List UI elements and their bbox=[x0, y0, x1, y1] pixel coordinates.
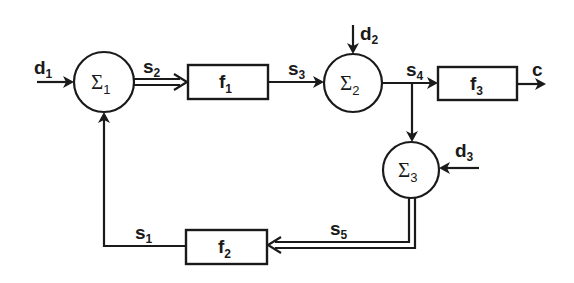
s3-label: s3 bbox=[288, 58, 306, 82]
d3-label: d3 bbox=[455, 140, 474, 164]
s4-label: s4 bbox=[406, 59, 424, 83]
summing-junction-2: Σ2 bbox=[324, 54, 382, 112]
s1-label: s1 bbox=[135, 222, 153, 246]
c-label: c bbox=[532, 59, 543, 80]
block-f3: f3 bbox=[438, 67, 517, 100]
block-diagram: d1 Σ1 s2 f1 s3 d2 Σ2 s4 f3 bbox=[0, 0, 574, 283]
d2-label: d2 bbox=[360, 23, 379, 47]
d1-label: d1 bbox=[34, 57, 53, 81]
block-f2: f2 bbox=[186, 230, 267, 264]
s2-double-arrow bbox=[134, 74, 187, 90]
s4-branch-arrow bbox=[406, 83, 418, 142]
block-f1: f1 bbox=[188, 65, 268, 99]
s2-label: s2 bbox=[143, 56, 161, 80]
s5-label: s5 bbox=[330, 218, 348, 242]
s5-double-arrow bbox=[268, 198, 415, 253]
summing-junction-3: Σ3 bbox=[383, 142, 439, 198]
d2-input-arrow bbox=[347, 25, 359, 54]
summing-junction-1: Σ1 bbox=[74, 52, 134, 112]
